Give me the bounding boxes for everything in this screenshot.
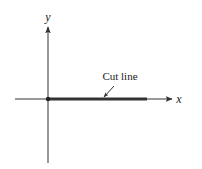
cut-line-pointer-arrow-icon [104,86,114,97]
origin-point [46,97,50,101]
cut-line-label: Cut line [102,70,137,82]
branch-cut-diagram: y x Cut line [0,0,202,169]
x-axis-label: x [175,92,182,106]
y-axis-label: y [44,10,51,24]
